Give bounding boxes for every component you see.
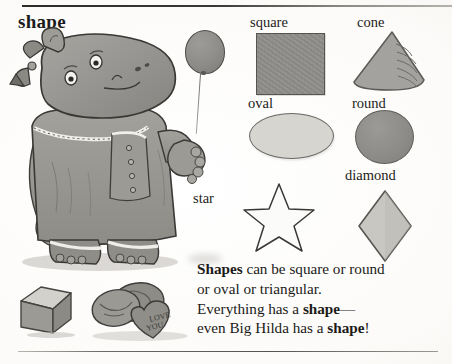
definition-line-4-lead: even Big Hilda has a [197, 319, 327, 336]
label-cone: cone [357, 14, 384, 31]
definition-line-3-tail: — [340, 300, 355, 317]
balloon-shape [185, 30, 225, 74]
oval-shape [249, 113, 334, 159]
definition-line-3: Everything has a shape— [197, 299, 449, 319]
dictionary-page: shape [0, 0, 452, 364]
definition-line-1: Shapes can be square or round [197, 259, 449, 279]
diamond-shape [356, 189, 414, 263]
top-divider-rule [22, 5, 452, 7]
star-shape [242, 182, 316, 254]
cookies-objects: LOVE YOU [88, 280, 193, 342]
definition-line-2: or oval or triangular. [197, 279, 449, 299]
label-oval: oval [248, 95, 273, 112]
definition-line-1-rest: can be square or round [243, 260, 385, 277]
cube-object [17, 283, 75, 339]
hippo-svg [8, 22, 208, 272]
definition-text: Shapes can be square or round or oval or… [197, 259, 449, 338]
hippo-character-illustration [8, 22, 208, 272]
definition-line-4-tail: ! [364, 319, 369, 336]
square-shape [256, 33, 325, 95]
definition-line-4: even Big Hilda has a shape! [197, 318, 449, 338]
definition-line-3-lead: Everything has a [197, 300, 303, 317]
label-star: star [193, 190, 214, 207]
definition-bold-shape-1: shape [303, 300, 340, 317]
round-shape [355, 110, 414, 164]
balloon-knot [201, 71, 206, 75]
cone-shape [352, 30, 428, 94]
definition-bold-shapes: Shapes [197, 260, 243, 277]
label-square: square [250, 14, 288, 31]
label-diamond: diamond [345, 167, 396, 184]
bottom-divider-rule [18, 351, 438, 352]
definition-bold-shape-2: shape [327, 319, 364, 336]
